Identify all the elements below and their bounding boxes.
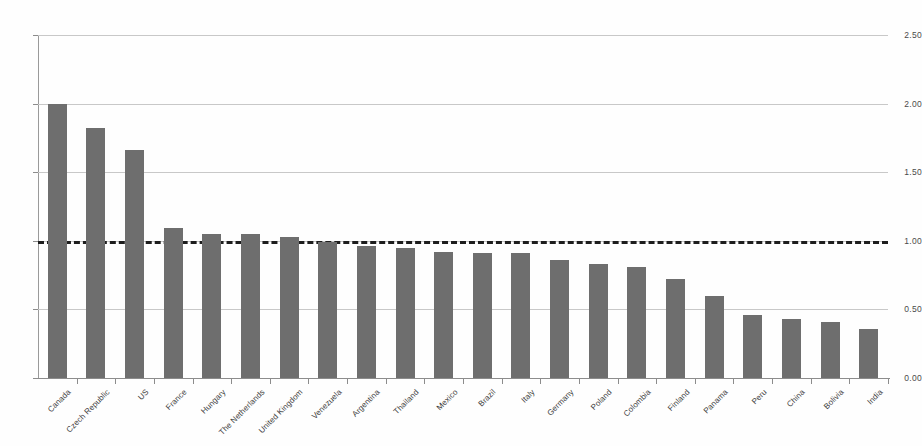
bar: [782, 319, 801, 378]
x-axis-label: Venezuela: [301, 384, 334, 417]
bar: [86, 128, 105, 378]
x-axis-label: Panama: [693, 384, 721, 412]
x-axis-label: Hungary: [190, 384, 218, 412]
x-axis-label-text: Colombia: [622, 388, 653, 419]
bar-chart: 0.000.501.001.502.002.50 CanadaCzech Rep…: [0, 0, 922, 446]
x-axis-label: Peru: [741, 384, 760, 403]
x-axis-label-text: Brazil: [477, 388, 498, 409]
y-tick-label: 0.50: [888, 304, 922, 314]
bar: [743, 315, 762, 378]
x-axis-label: Mexico: [425, 384, 450, 409]
x-axis-label: Brazil: [468, 384, 489, 405]
x-axis-label: Finland: [656, 384, 681, 409]
x-axis-label: Canada: [37, 384, 64, 411]
x-axis-label-text: Thailand: [392, 388, 421, 417]
x-axis-label-text: Peru: [750, 388, 769, 407]
bar: [666, 279, 685, 378]
bar: [473, 253, 492, 378]
x-axis-label-text: Italy: [519, 388, 536, 405]
bar: [859, 329, 878, 378]
y-tick-label: 1.00: [888, 236, 922, 246]
x-axis-label: US: [127, 384, 141, 398]
x-axis-label-text: Poland: [589, 388, 613, 412]
x-axis-label: Colombia: [612, 384, 643, 415]
bar: [202, 234, 221, 378]
bar: [550, 260, 569, 378]
bar: [589, 264, 608, 378]
x-axis-label-text: Argentina: [351, 388, 382, 419]
bar: [48, 104, 67, 378]
bar: [125, 150, 144, 378]
x-axis-label: China: [776, 384, 798, 406]
y-tick-label: 2.50: [888, 30, 922, 40]
x-axis-label-text: Germany: [545, 388, 575, 418]
bar: [705, 296, 724, 378]
x-axis-label: Argentina: [342, 384, 373, 415]
y-tick-label: 0.00: [888, 373, 922, 383]
x-axis-label: India: [856, 384, 875, 403]
x-axis-label-text: France: [164, 388, 188, 412]
x-axis-label: France: [155, 384, 179, 408]
bar: [164, 228, 183, 378]
bar: [434, 252, 453, 378]
x-axis-label-text: Finland: [666, 388, 691, 413]
bars-layer: [38, 35, 888, 378]
x-axis-label: Italy: [510, 384, 527, 401]
y-tick-label: 2.00: [888, 99, 922, 109]
x-axis-label: Germany: [536, 384, 566, 414]
bar: [396, 248, 415, 378]
x-axis-label: Thailand: [383, 384, 412, 413]
bar: [318, 242, 337, 378]
bar: [241, 234, 260, 378]
bar: [357, 246, 376, 378]
bar: [280, 237, 299, 378]
bar: [511, 253, 530, 378]
x-axis-label: Bolivia: [813, 384, 837, 408]
x-axis-label-text: Venezuela: [310, 388, 343, 421]
bar: [821, 322, 840, 378]
x-axis-labels: CanadaCzech RepublicUSFranceHungaryThe N…: [38, 384, 922, 446]
x-axis-label: Poland: [580, 384, 604, 408]
y-tick-label: 1.50: [888, 167, 922, 177]
x-axis-label-text: Mexico: [435, 388, 460, 413]
x-axis-label-text: Bolivia: [822, 388, 846, 412]
x-axis-label-text: India: [865, 388, 884, 407]
x-axis-label-text: US: [136, 388, 150, 402]
x-axis-label-text: China: [785, 388, 807, 410]
x-axis-label-text: Panama: [702, 388, 730, 416]
bar: [627, 267, 646, 378]
x-axis-baseline: [38, 378, 890, 379]
